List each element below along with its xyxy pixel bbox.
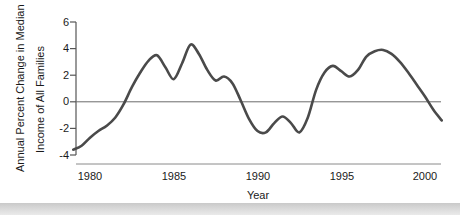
x-tick-label-2000: 2000 bbox=[413, 170, 437, 182]
x-axis-title: Year bbox=[247, 189, 270, 201]
line-chart: Annual Percent Change in Median Income o… bbox=[0, 0, 460, 203]
chart-figure: Annual Percent Change in Median Income o… bbox=[0, 0, 460, 203]
screenshot-root: Annual Percent Change in Median Income o… bbox=[0, 0, 460, 215]
y-tick-label-0: 0 bbox=[63, 95, 69, 107]
y-tick-label-2: 2 bbox=[63, 69, 69, 81]
x-tick-label-1990: 1990 bbox=[246, 170, 270, 182]
x-tick-label-1995: 1995 bbox=[330, 170, 354, 182]
y-axis-title-line2: Income of All Families bbox=[34, 46, 46, 153]
y-tick-label-6: 6 bbox=[63, 16, 69, 28]
y-tick-label-neg2: -2 bbox=[59, 122, 69, 134]
x-tick-label-1980: 1980 bbox=[78, 170, 102, 182]
data-series-line bbox=[73, 44, 442, 149]
y-tick-label-neg4: -4 bbox=[59, 149, 69, 161]
y-axis-title-line1: Annual Percent Change in Median bbox=[14, 4, 26, 172]
x-tick-label-1985: 1985 bbox=[162, 170, 186, 182]
y-tick-label-4: 4 bbox=[63, 42, 69, 54]
bottom-gray-band bbox=[0, 203, 460, 215]
